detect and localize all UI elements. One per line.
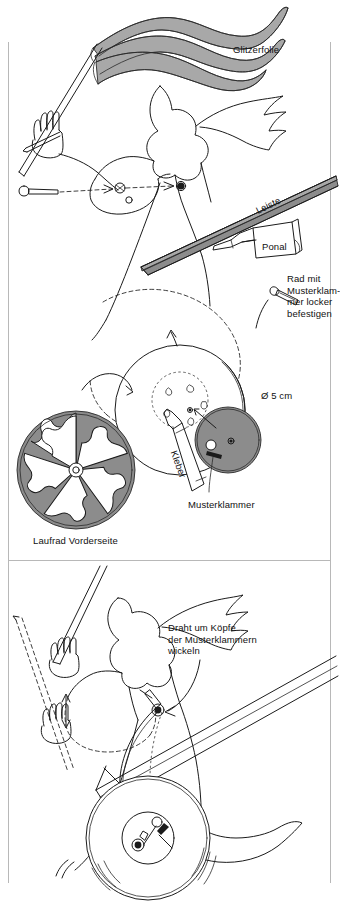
label-draht-um-koepfe: Draht um Köpfe der Musterklammern wickel… [168, 622, 257, 657]
arm-outline-top [59, 154, 118, 190]
holding-stick [19, 44, 102, 176]
musterklammer-callout-top [19, 181, 186, 203]
skirt-dashed-motion [65, 697, 156, 752]
musterklammer-upper-bottom [140, 690, 164, 716]
label-rad-mit-musterklammer: Rad mit Musterklam- mer locker befestige… [287, 273, 340, 319]
wheel-position-arrow [167, 330, 177, 346]
stick-bottom-held [53, 566, 107, 664]
hand-upper [32, 111, 63, 158]
hand-bottom-upper [49, 637, 79, 678]
hand-bottom-lower [41, 703, 71, 744]
wheel-gray-small [195, 407, 261, 473]
label-glitzerfolie: Glitzerfolie [233, 44, 279, 56]
label-ponal: Ponal [262, 241, 287, 253]
label-laufrad-vorderseite: Laufrad Vorderseite [33, 535, 118, 547]
wheel-bottom [86, 776, 210, 900]
motion-arrow-bottom [62, 694, 70, 728]
label-durchmesser: Ø 5 cm [261, 390, 292, 402]
wheel-dashed-outline-top-2 [90, 378, 107, 415]
laufrad-vorderseite-graphic [14, 411, 135, 534]
leiste-wooden-strip [141, 176, 338, 275]
label-musterklammer: Musterklammer [188, 499, 255, 511]
